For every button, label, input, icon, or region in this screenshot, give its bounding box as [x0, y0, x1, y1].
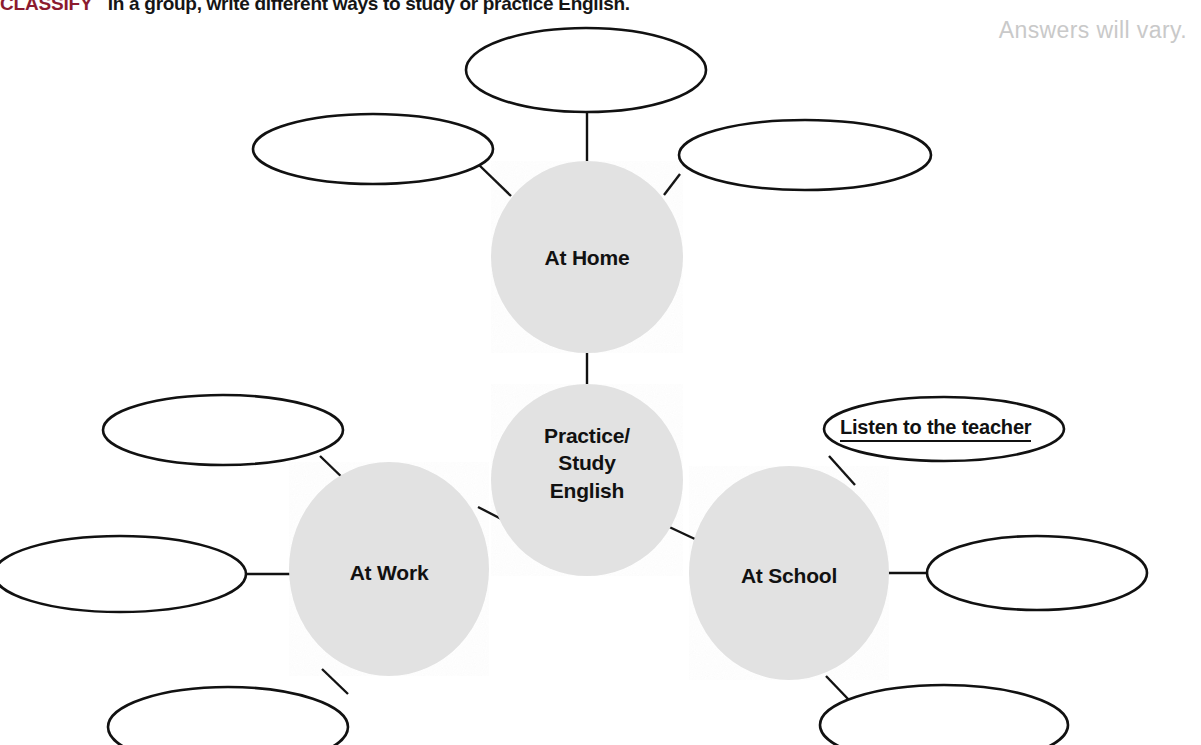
bubble-home-left[interactable] — [253, 114, 493, 184]
bubble-work-left[interactable] — [0, 536, 246, 612]
bubble-home-top[interactable] — [466, 28, 706, 112]
center-node — [491, 384, 683, 576]
hub-at-school — [689, 466, 889, 680]
bubble-work-top[interactable] — [103, 395, 343, 465]
bubble-work-bottom[interactable] — [108, 687, 348, 745]
connector-home-right — [664, 174, 680, 195]
bubble-home-right[interactable] — [679, 120, 931, 190]
connector-work-bottom — [322, 669, 348, 694]
bubble-school-bottom[interactable] — [820, 685, 1068, 745]
cluster-diagram — [0, 0, 1201, 745]
hub-at-home — [491, 161, 683, 353]
hub-at-work — [289, 462, 489, 676]
bubble-school-right[interactable] — [927, 536, 1147, 610]
bubble-school-top[interactable] — [824, 397, 1064, 461]
connector-school-bottom — [826, 676, 849, 700]
worksheet-page: CLASSIFY In a group, write different way… — [0, 0, 1201, 745]
connector-home-left — [478, 164, 511, 196]
